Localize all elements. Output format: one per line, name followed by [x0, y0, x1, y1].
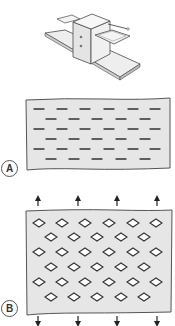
slit-sheet-graphic [24, 96, 172, 172]
pull-arrows-top [38, 198, 157, 206]
panel-b-label: B [1, 300, 18, 317]
panel-a-slit-sheet [24, 96, 172, 172]
panel-a-label: A [1, 160, 18, 177]
pull-arrows-bottom [38, 316, 157, 324]
slitting-machine-illustration [40, 2, 145, 84]
expanded-sheet-graphic [24, 192, 174, 326]
panel-b-expanded-sheet [24, 192, 174, 326]
